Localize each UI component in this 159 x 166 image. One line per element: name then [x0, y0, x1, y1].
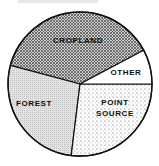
- label-point-source-line2: SOURCE: [96, 109, 134, 118]
- label-point-source-line1: POINT: [101, 98, 128, 107]
- label-other: OTHER: [111, 68, 142, 77]
- slice-point-source: [71, 84, 152, 156]
- label-cropland: CROPLAND: [53, 36, 103, 45]
- label-forest: FOREST: [16, 99, 52, 108]
- pie-chart: CROPLAND FOREST POINT SOURCE OTHER: [0, 0, 159, 166]
